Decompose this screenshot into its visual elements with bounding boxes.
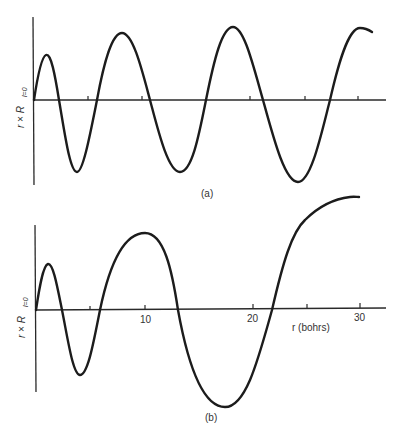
panel-b-x-axis-label: r (bohrs) — [292, 322, 330, 333]
panel-a-y-axis-label: r × R l=0 — [15, 87, 28, 128]
y-label-main: r × R — [16, 316, 27, 338]
y-label-sub: l=0 — [21, 87, 28, 97]
panel-b-x-axis — [35, 308, 386, 310]
panel-b-wavefunction-curve — [36, 197, 359, 407]
panel-a-wavefunction-curve — [34, 27, 372, 182]
figure-canvas: (a) 10 20 30 r (bohrs) (b) r × R l=0 r ×… — [0, 0, 400, 430]
y-label-sub: l=0 — [22, 297, 29, 307]
panel-b-tick-label-30: 30 — [354, 312, 366, 323]
panel-b: 10 20 30 r (bohrs) (b) — [35, 197, 386, 423]
panel-b-label: (b) — [205, 412, 217, 423]
panel-b-tick-label-20: 20 — [247, 313, 259, 324]
panel-b-y-axis-label: r × R l=0 — [16, 297, 29, 338]
panel-a-label: (a) — [201, 188, 213, 199]
panel-b-tick-label-10: 10 — [140, 314, 152, 325]
panel-a: (a) — [33, 17, 386, 199]
y-label-main: r × R — [15, 106, 26, 128]
